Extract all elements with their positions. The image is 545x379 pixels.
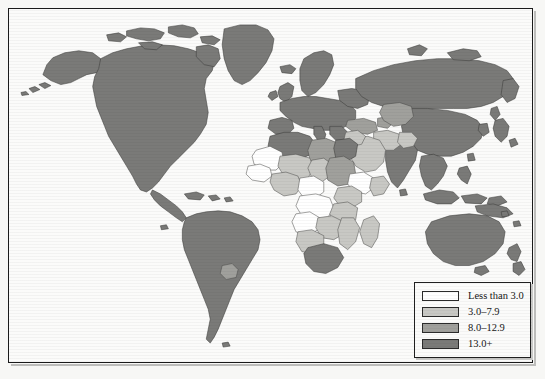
legend-row: 3.0–7.9: [422, 304, 524, 320]
figure-frame: .c0 { fill:#ffffff; stroke:#555553; stro…: [8, 8, 533, 363]
figure-page: .c0 { fill:#ffffff; stroke:#555553; stro…: [0, 0, 545, 379]
map-legend: Less than 3.0 3.0–7.9 8.0–12.9 13.0+: [414, 282, 531, 358]
legend-label-8-to-12-9: 8.0–12.9: [468, 323, 505, 334]
legend-swatch-8-to-12-9: [422, 323, 459, 333]
legend-label-3-to-7-9: 3.0–7.9: [468, 307, 500, 318]
legend-label-13-plus: 13.0+: [468, 339, 492, 350]
legend-label-less-than-3: Less than 3.0: [468, 291, 524, 302]
legend-swatch-3-to-7-9: [422, 307, 459, 317]
legend-row: 13.0+: [422, 336, 524, 352]
legend-row: Less than 3.0: [422, 288, 524, 304]
legend-swatch-13-plus: [422, 339, 459, 349]
legend-row: 8.0–12.9: [422, 320, 524, 336]
legend-swatch-less-than-3: [422, 291, 459, 301]
